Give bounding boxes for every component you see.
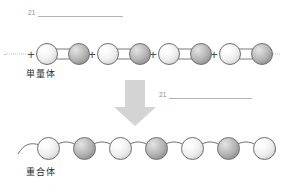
reference-rule <box>169 98 252 99</box>
reference-number: 21 <box>159 92 167 100</box>
plus-sign-1: + <box>27 48 35 61</box>
monomer-sphere-light <box>36 43 58 65</box>
monomer-unit <box>36 41 90 67</box>
polymer-sphere-dark <box>217 137 240 160</box>
monomer-sphere-light <box>158 43 180 65</box>
polymer-sphere-light <box>37 137 60 160</box>
polymer-row <box>0 132 287 164</box>
monomer-sphere-light <box>219 43 241 65</box>
monomer-unit <box>97 41 151 67</box>
polymer-sphere-light <box>253 137 276 160</box>
lead-dash-left-icon <box>4 54 26 55</box>
figure-canvas: 21 + + + + + 単量体 <box>0 0 287 196</box>
monomer-sphere-light <box>97 43 119 65</box>
monomer-row: + + + + + <box>0 39 287 69</box>
reference-number: 21 <box>28 10 36 18</box>
down-arrow-icon <box>113 80 157 127</box>
monomer-sphere-dark <box>68 43 90 65</box>
polymer-sphere-light <box>181 137 204 160</box>
monomer-caption: 単量体 <box>26 70 56 79</box>
monomer-unit <box>219 41 273 67</box>
monomer-sphere-dark <box>129 43 151 65</box>
reference-rule <box>38 16 123 17</box>
monomer-unit <box>158 41 212 67</box>
monomer-sphere-dark <box>190 43 212 65</box>
reference-label-middle: 21 <box>159 92 252 100</box>
polymer-caption: 重合体 <box>26 168 56 177</box>
polymer-sphere-light <box>109 137 132 160</box>
reference-label-top: 21 <box>28 10 123 18</box>
polymer-sphere-dark <box>73 137 96 160</box>
polymer-sphere-dark <box>145 137 168 160</box>
monomer-sphere-dark <box>251 43 273 65</box>
